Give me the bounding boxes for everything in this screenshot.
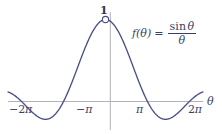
x-tick-pi-pi: π	[136, 103, 143, 116]
x-tick-label-neg-2pi: −2π	[9, 104, 32, 115]
x-tick-neg-pi-pi: π	[85, 103, 92, 116]
x-tick-label-pi: π	[136, 104, 143, 115]
formula-equals-sign: =	[154, 28, 163, 39]
x-tick-2pi-number: 2	[188, 103, 195, 116]
peak-value-label: 1	[100, 5, 108, 16]
x-tick-2pi-pi: π	[195, 103, 202, 116]
formula-fraction: sin θ θ	[168, 21, 197, 46]
x-axis-variable-label: θ	[207, 96, 214, 107]
x-tick-label-neg-pi: −π	[76, 104, 92, 115]
formula-numerator-variable: θ	[187, 20, 194, 33]
formula-sin-function-name: sin	[170, 20, 187, 33]
formula-denominator: θ	[176, 34, 187, 46]
x-tick-neg-2pi-pi: π	[25, 103, 32, 116]
x-tick-neg-pi-minus: −	[76, 103, 85, 116]
x-tick-neg-2pi-number: 2	[18, 103, 25, 116]
x-tick-neg-2pi-minus: −	[9, 103, 18, 116]
x-tick-label-2pi: 2π	[188, 104, 202, 115]
formula-numerator: sin θ	[168, 21, 197, 33]
sinc-function-figure: 1 −2π −π π 2π θ f(θ) = sin θ θ	[0, 0, 222, 134]
formula-lhs: f(θ)	[132, 28, 151, 39]
function-formula: f(θ) = sin θ θ	[132, 21, 196, 46]
peak-open-circle-marker	[102, 16, 108, 22]
